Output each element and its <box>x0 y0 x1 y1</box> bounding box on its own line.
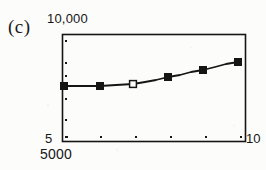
data-markers <box>61 59 242 90</box>
plot-frame <box>63 35 246 142</box>
data-line <box>64 62 238 86</box>
figure-panel-c: (c) 10,000 5 5000 10 <box>0 0 266 170</box>
axis-ticks <box>65 40 242 138</box>
plot-area <box>0 0 266 170</box>
